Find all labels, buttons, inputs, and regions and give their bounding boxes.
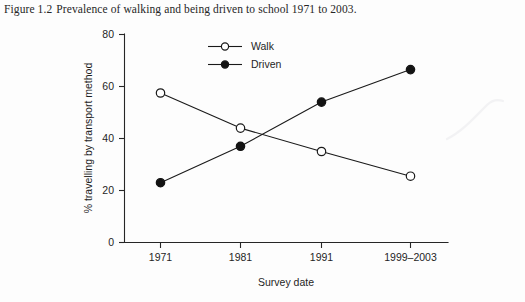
x-tick-label-1999-2003: 1999–2003 [384, 251, 437, 263]
data-point-walk-1999–2003 [406, 172, 414, 180]
x-tick-label-1971: 1971 [149, 251, 173, 263]
x-tick-label-1991: 1991 [310, 251, 334, 263]
y-tick-label-20: 20 [102, 184, 114, 196]
series-markers-driven [156, 65, 414, 187]
data-point-driven-1991 [317, 98, 325, 106]
data-point-driven-1999–2003 [406, 65, 414, 73]
y-tick-label-0: 0 [108, 236, 114, 248]
x-tick-label-1981: 1981 [229, 251, 253, 263]
x-tick-group [161, 243, 411, 249]
chart-legend: Walk Driven [208, 40, 282, 70]
figure-caption-text: Prevalence of walking and being driven t… [56, 3, 356, 15]
x-axis-title: Survey date [258, 276, 314, 288]
data-point-walk-1991 [317, 147, 325, 155]
legend-label-walk: Walk [251, 40, 275, 52]
y-tick-label-40: 40 [102, 132, 114, 144]
y-tick-group [119, 35, 125, 243]
data-point-driven-1981 [236, 142, 244, 150]
y-axis-title: % travelling by transport method [82, 63, 94, 214]
figure-caption: Figure 1.2Prevalence of walking and bein… [4, 3, 357, 15]
legend-marker-driven [221, 61, 228, 68]
legend-label-driven: Driven [251, 58, 282, 70]
data-point-walk-1971 [156, 89, 164, 97]
line-chart: 80 60 40 20 0 % travelling by transport … [0, 18, 525, 302]
figure-number: Figure 1.2 [4, 3, 52, 15]
figure-container: Figure 1.2Prevalence of walking and bein… [0, 0, 525, 302]
data-point-driven-1971 [156, 179, 164, 187]
chart-area: 80 60 40 20 0 % travelling by transport … [0, 18, 525, 302]
legend-marker-walk [221, 43, 228, 50]
series-line-walk [161, 93, 411, 176]
y-tick-label-80: 80 [102, 28, 114, 40]
data-point-walk-1981 [236, 124, 244, 132]
y-tick-label-60: 60 [102, 80, 114, 92]
